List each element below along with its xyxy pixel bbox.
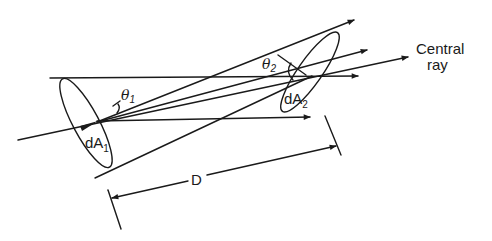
central-ray-label: Central	[416, 40, 464, 57]
lower-horizontal-ray	[97, 117, 310, 121]
central-ray-entry-arrow-icon	[80, 121, 98, 131]
theta1-arc	[117, 104, 119, 113]
central-ray-label-line2: ray	[427, 56, 448, 73]
distance-line-right	[207, 146, 336, 175]
area-element-1	[51, 73, 121, 174]
theta2-label: θ2	[262, 56, 276, 74]
distance-label: D	[191, 171, 202, 188]
theta1-label: θ1	[121, 87, 135, 105]
diagram-canvas: D dA1 dA2 θ1 θ2 Central ray	[0, 0, 492, 241]
middle-divergent-ray	[97, 50, 367, 122]
distance-line-left	[112, 181, 188, 198]
upper-divergent-ray	[97, 20, 354, 122]
central-ray	[18, 57, 408, 140]
area2-label: dA2	[284, 90, 308, 110]
distance-right-tick	[325, 116, 341, 155]
